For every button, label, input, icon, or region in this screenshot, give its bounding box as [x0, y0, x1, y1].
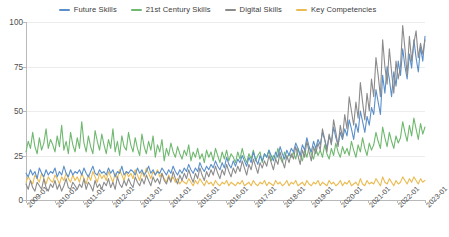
series-line-digital-skills — [26, 26, 425, 192]
series-line-21st-century-skills — [26, 118, 425, 162]
series-line-future-skills — [26, 36, 425, 178]
